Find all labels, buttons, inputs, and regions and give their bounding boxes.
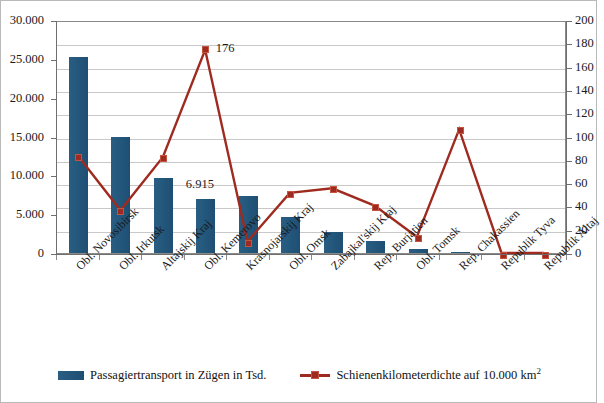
legend-item-bars[interactable]: Passagiertransport in Zügen in Tsd. (58, 368, 266, 383)
legend-item-line[interactable]: Schienenkilometerdichte auf 10.000 km2 (300, 366, 540, 383)
legend-label-line-text: Schienenkilometerdichte auf 10.000 km (336, 369, 536, 383)
legend-line-swatch-icon (300, 370, 330, 380)
x-axis-category-labels: Obl. NovosibirskObl. IrkutskAltajskij Kr… (1, 1, 598, 403)
legend-bar-swatch-icon (58, 371, 84, 380)
legend-label-line: Schienenkilometerdichte auf 10.000 km2 (336, 366, 540, 383)
chart-legend: Passagiertransport in Zügen in Tsd. Schi… (1, 363, 598, 387)
legend-label-bars: Passagiertransport in Zügen in Tsd. (90, 368, 266, 383)
legend-label-line-superscript: 2 (536, 366, 541, 376)
